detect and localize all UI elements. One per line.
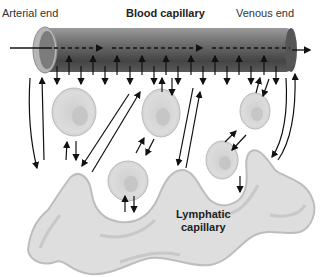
lymphatic-label-line2: capillary [176,221,231,234]
lymphatic-capillary [28,150,314,274]
blood-capillary [33,27,297,73]
arterial-end-label: Arterial end [2,7,58,19]
diagram-canvas [0,0,329,277]
lymphatic-capillary-label: Lymphatic capillary [176,208,231,234]
blood-capillary-label: Blood capillary [126,7,205,19]
venous-end-label: Venous end [236,7,294,19]
lymphatic-label-line1: Lymphatic [176,208,231,221]
